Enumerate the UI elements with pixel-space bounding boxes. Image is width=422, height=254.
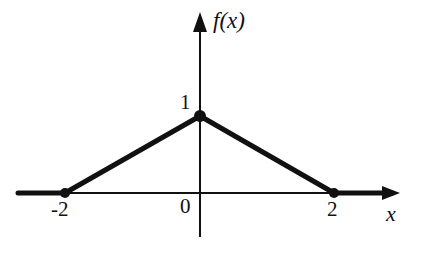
y-axis-label: f(x)	[213, 9, 245, 32]
function-curve-tent	[18, 116, 392, 193]
y-tick-label-one: 1	[180, 92, 191, 113]
axes-group	[18, 12, 400, 237]
x-axis-label: x	[386, 203, 396, 225]
x-tick-label-two: 2	[327, 199, 338, 220]
origin-tick-label: 0	[180, 196, 191, 217]
marker-dot-peak	[194, 110, 206, 122]
y-axis-arrowhead	[193, 12, 207, 32]
function-curve-group	[18, 116, 392, 193]
x-tick-label-negative-two: -2	[51, 199, 69, 220]
function-graph-figure: f(x) x 1 0 -2 2	[0, 0, 422, 254]
